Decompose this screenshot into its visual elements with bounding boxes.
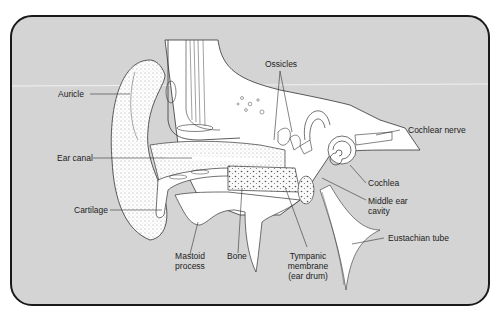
label-eustachian-tube: Eustachian tube [388, 233, 449, 243]
label-cochlea: Cochlea [368, 178, 399, 188]
label-middle-ear-cavity: Middle ear cavity [368, 196, 408, 216]
label-ossicles: Ossicles [265, 59, 297, 69]
label-cartilage: Cartilage [74, 205, 108, 215]
label-ear-canal: Ear canal [57, 153, 93, 163]
bone-shape [228, 166, 300, 192]
label-bone: Bone [227, 251, 247, 261]
label-cochlear-nerve: Cochlear nerve [408, 125, 466, 135]
cochlea-shape [328, 136, 356, 165]
label-mastoid-process: Mastoid process [168, 251, 212, 271]
label-auricle: Auricle [58, 89, 84, 99]
label-tympanic-membrane: Tympanic membrane (ear drum) [284, 251, 332, 281]
